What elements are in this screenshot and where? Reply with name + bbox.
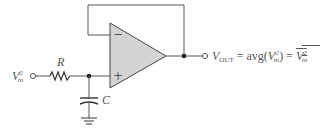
output-sub3: in bbox=[302, 56, 307, 64]
input-label-sub: in bbox=[18, 76, 23, 84]
output-eq1: = avg( bbox=[234, 49, 268, 63]
output-node-dot bbox=[182, 54, 187, 59]
noninverting-input-symbol: + bbox=[113, 70, 123, 82]
inverting-input-symbol: − bbox=[113, 28, 123, 40]
output-sub2: in bbox=[274, 56, 279, 64]
capacitor-label: C bbox=[102, 94, 110, 106]
resistor-label: R bbox=[57, 56, 64, 68]
output-sub: OUT bbox=[219, 56, 233, 64]
input-terminal bbox=[30, 73, 35, 78]
input-label: V2in bbox=[12, 70, 23, 82]
output-eq2: ) = bbox=[279, 49, 296, 63]
output-overline-term: V2in bbox=[296, 50, 307, 62]
resistor-symbol bbox=[50, 72, 70, 80]
output-terminal bbox=[202, 53, 207, 58]
average-overline-bar bbox=[302, 45, 320, 46]
output-label: VOUT = avg(V2in) = V2in bbox=[212, 50, 307, 62]
circuit-diagram bbox=[0, 0, 325, 135]
